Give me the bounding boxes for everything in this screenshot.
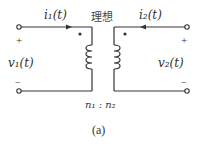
- primary-voltage-label: v₁(t): [8, 56, 34, 70]
- circuit-svg: i₁(t) 理想 i₂(t) + + v₁(t) v₂(t) − − n₁ : …: [0, 0, 202, 150]
- secondary-polarity-dot-icon: [123, 32, 126, 35]
- secondary-current-arrow-icon: [140, 25, 146, 30]
- secondary-current-label: i₂(t): [139, 8, 162, 22]
- secondary-voltage-label: v₂(t): [158, 56, 184, 70]
- primary-current-label: i₁(t): [44, 8, 67, 22]
- terminal-primary-bottom: [17, 89, 21, 93]
- terminal-primary-top: [17, 25, 21, 29]
- terminal-secondary-top: [185, 25, 189, 29]
- secondary-coil: [114, 45, 120, 69]
- transformer-diagram: i₁(t) 理想 i₂(t) + + v₁(t) v₂(t) − − n₁ : …: [0, 0, 202, 150]
- primary-coil: [86, 45, 92, 69]
- turns-ratio-label: n₁ : n₂: [85, 99, 116, 110]
- ideal-label: 理想: [91, 10, 113, 24]
- primary-current-arrow-icon: [66, 25, 72, 30]
- primary-polarity-dot-icon: [78, 32, 81, 35]
- primary-minus-sign: −: [15, 77, 21, 88]
- secondary-minus-sign: −: [181, 77, 187, 88]
- terminal-secondary-bottom: [185, 89, 189, 93]
- secondary-plus-sign: +: [181, 34, 187, 46]
- figure-caption: (a): [92, 123, 105, 137]
- primary-plus-sign: +: [16, 34, 22, 46]
